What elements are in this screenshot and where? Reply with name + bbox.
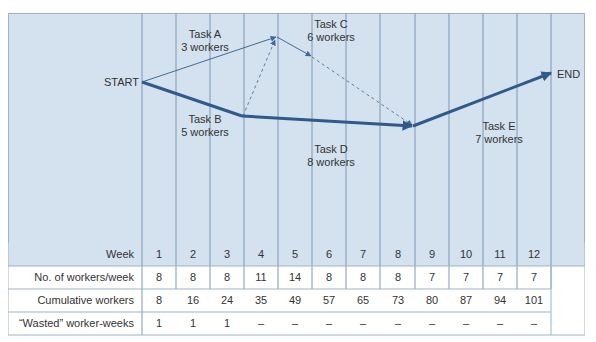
table-cell: 35 — [244, 289, 278, 312]
table-cell: 7 — [415, 266, 449, 289]
task-e-workers: 7 workers — [472, 133, 526, 146]
task-e-label: Task E 7 workers — [472, 120, 526, 146]
table-cell: 1 — [142, 312, 176, 335]
table-cell: 8 — [142, 266, 176, 289]
row-label: Cumulative workers — [8, 289, 142, 312]
table-row-cumulative-workers: Cumulative workers 8 16 24 35 49 57 65 7… — [8, 289, 585, 312]
week-cell: 5 — [278, 243, 312, 266]
task-b-workers: 5 workers — [178, 126, 232, 139]
table-cell: – — [244, 312, 278, 335]
table-cell: 11 — [244, 266, 278, 289]
week-cell: 3 — [210, 243, 244, 266]
end-node-label: END — [557, 68, 580, 81]
table-cell: 49 — [278, 289, 312, 312]
start-node-label: START — [104, 76, 139, 89]
table-cell: 8 — [176, 266, 210, 289]
table-cell: – — [312, 312, 346, 335]
week-cell: 12 — [517, 243, 551, 266]
table-cell: 24 — [210, 289, 244, 312]
week-cell: 8 — [381, 243, 415, 266]
task-c-dashed-arrow — [312, 57, 412, 125]
task-b-path — [142, 82, 242, 116]
task-b-name: Task B — [178, 113, 232, 126]
table-cell: 14 — [278, 266, 312, 289]
table-cell: 8 — [346, 266, 380, 289]
week-cell: 6 — [312, 243, 346, 266]
table-cell: 8 — [142, 289, 176, 312]
task-c-name: Task C — [304, 18, 358, 31]
table-cell: – — [483, 312, 517, 335]
table-cell: – — [449, 312, 483, 335]
week-cell: 2 — [176, 243, 210, 266]
network-diagram: START END Task A 3 workers Task B 5 work… — [8, 13, 585, 335]
table-cell: 65 — [346, 289, 380, 312]
week-cell: 11 — [483, 243, 517, 266]
week-cell: 1 — [142, 243, 176, 266]
task-e-name: Task E — [472, 120, 526, 133]
table-cell: 101 — [517, 289, 551, 312]
task-a-workers: 3 workers — [178, 41, 232, 54]
table-cell: 7 — [449, 266, 483, 289]
table-cell: 8 — [210, 266, 244, 289]
table-cell: – — [346, 312, 380, 335]
table-cell: 87 — [449, 289, 483, 312]
table-row-workers-per-week: No. of workers/week 8 8 8 11 14 8 8 8 7 … — [8, 266, 585, 289]
table-cell: – — [517, 312, 551, 335]
table-cell: 94 — [483, 289, 517, 312]
table-cell: 16 — [176, 289, 210, 312]
table-cell: – — [415, 312, 449, 335]
week-label: Week — [8, 243, 142, 266]
week-cell: 7 — [346, 243, 380, 266]
table-cell: 7 — [517, 266, 551, 289]
row-label: “Wasted” worker-weeks — [8, 312, 142, 335]
task-a-name: Task A — [178, 28, 232, 41]
table-cell: – — [278, 312, 312, 335]
task-c-workers: 6 workers — [304, 31, 358, 44]
task-b-label: Task B 5 workers — [178, 113, 232, 139]
table-cell: 8 — [312, 266, 346, 289]
week-cell: 4 — [244, 243, 278, 266]
week-cell: 10 — [449, 243, 483, 266]
table-cell: 1 — [176, 312, 210, 335]
task-d-workers: 8 workers — [304, 156, 358, 169]
week-cell: 9 — [415, 243, 449, 266]
table-cell: 73 — [381, 289, 415, 312]
week-header-row: Week 1 2 3 4 5 6 7 8 9 10 11 12 — [8, 243, 585, 266]
task-a-label: Task A 3 workers — [178, 28, 232, 54]
dependency-dashed-arrow — [243, 40, 275, 116]
table-cell: 57 — [312, 289, 346, 312]
table-cell: 7 — [483, 266, 517, 289]
table-cell: 80 — [415, 289, 449, 312]
table-cell: – — [381, 312, 415, 335]
task-d-name: Task D — [304, 143, 358, 156]
task-d-arrow — [242, 116, 412, 126]
table-cell: 1 — [210, 312, 244, 335]
table-cell: 8 — [381, 266, 415, 289]
row-label: No. of workers/week — [8, 266, 142, 289]
task-d-label: Task D 8 workers — [304, 143, 358, 169]
task-e-arrow — [413, 73, 551, 126]
task-c-label: Task C 6 workers — [304, 18, 358, 44]
table-row-wasted-worker-weeks: “Wasted” worker-weeks 1 1 1 – – – – – – … — [8, 312, 585, 335]
